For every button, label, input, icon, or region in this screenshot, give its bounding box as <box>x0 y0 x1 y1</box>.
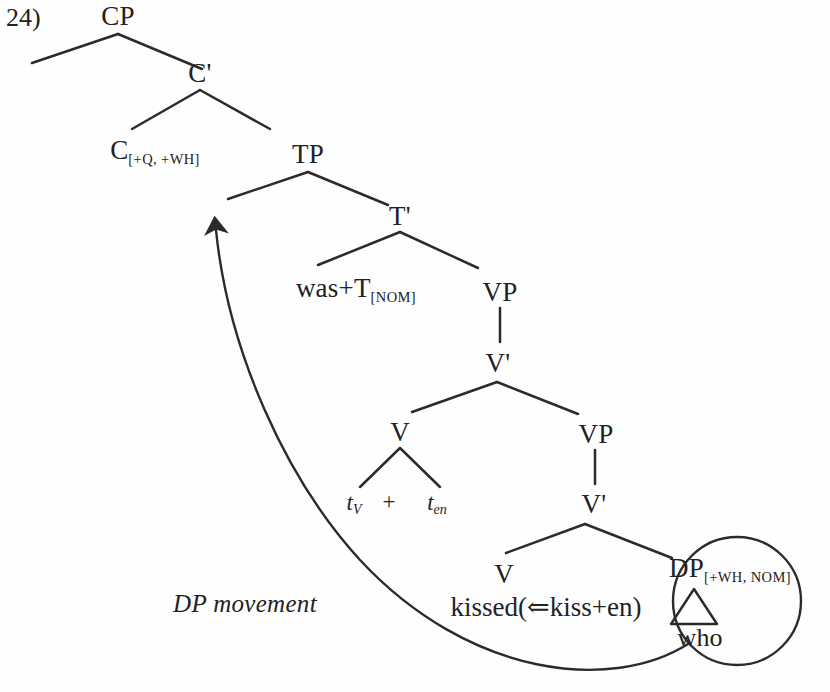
leaf-who: who <box>678 623 723 653</box>
item-number: 24) <box>6 3 41 33</box>
node-vp-upper: VP <box>483 279 518 306</box>
node-v-upper: V <box>390 419 410 446</box>
figure-canvas: 24) CP C' C[+Q, +WH] TP T' was+T[NOM] VP… <box>0 0 830 692</box>
node-t-head-features: [NOM] <box>371 289 417 305</box>
node-vp-upper-label: VP <box>483 277 518 307</box>
node-v-lower-label: V <box>494 559 514 589</box>
node-v-upper-label: V <box>390 417 410 447</box>
node-v-lower: V <box>494 561 514 588</box>
node-c-head-label: C <box>110 135 128 165</box>
node-tp: TP <box>292 141 324 168</box>
node-c-bar: C' <box>188 60 211 87</box>
trace-v: tV <box>347 490 362 518</box>
node-dp-label: DP <box>669 553 704 583</box>
node-t-bar: T' <box>389 203 411 230</box>
branch-tbar-to-t <box>318 232 400 265</box>
dp-triangle-icon <box>668 586 720 628</box>
dp-movement-label: DP movement <box>173 590 317 618</box>
node-dp: DP[+WH, NOM] <box>669 555 791 584</box>
branch-tp-to-tbar <box>308 172 388 205</box>
node-c-head: C[+Q, +WH] <box>110 137 200 166</box>
node-t-bar-label: T' <box>389 201 411 231</box>
branch-v-to-trace-en <box>400 448 440 487</box>
branch-v-to-trace-v <box>360 448 400 487</box>
node-c-bar-label: C' <box>188 58 211 88</box>
node-v-bar-lower: V' <box>582 491 607 518</box>
trace-v-subscript: V <box>353 502 362 517</box>
node-c-head-features: [+Q, +WH] <box>128 151 200 167</box>
branch-cbar-to-tp <box>200 90 270 129</box>
node-v-bar-upper-label: V' <box>486 348 511 378</box>
branch-tp-left <box>228 172 308 199</box>
leaf-kissed: kissed(⇐kiss+en) <box>451 591 642 623</box>
node-v-bar-lower-label: V' <box>582 489 607 519</box>
node-vp-lower-label: VP <box>579 419 614 449</box>
node-dp-features: [+WH, NOM] <box>704 569 791 585</box>
node-v-bar-upper: V' <box>486 350 511 377</box>
branch-vbar-upper-to-v <box>412 382 497 412</box>
branch-cbar-to-c <box>132 90 200 129</box>
branch-vbar-lower-to-v <box>506 524 585 553</box>
node-cp: CP <box>101 3 134 30</box>
branch-cp-left <box>32 34 118 63</box>
trace-en-subscript: en <box>434 502 447 517</box>
node-t-head-label: was+T <box>296 273 371 303</box>
node-t-head: was+T[NOM] <box>296 275 416 304</box>
node-vp-lower: VP <box>579 421 614 448</box>
node-tp-label: TP <box>292 139 324 169</box>
branch-vbar-upper-to-vp <box>497 382 578 414</box>
trace-en: ten <box>427 490 447 518</box>
node-cp-label: CP <box>101 1 134 31</box>
branch-tbar-to-vp <box>400 232 478 268</box>
trace-plus-sign: + <box>383 489 396 515</box>
branch-vbar-lower-to-dp <box>585 524 672 558</box>
